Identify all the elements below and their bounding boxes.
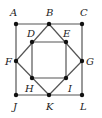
label-E: E bbox=[62, 28, 71, 39]
label-L: L bbox=[79, 101, 87, 112]
point-B bbox=[47, 22, 51, 26]
label-D: D bbox=[26, 28, 35, 39]
point-K bbox=[47, 93, 51, 97]
point-C bbox=[80, 22, 84, 26]
point-L bbox=[80, 93, 84, 97]
point-J bbox=[14, 93, 18, 97]
point-G bbox=[80, 59, 84, 63]
label-K: K bbox=[45, 101, 54, 112]
label-H: H bbox=[24, 83, 34, 94]
label-C: C bbox=[80, 7, 88, 18]
geometry-diagram: ABCDEFGHIJKL bbox=[0, 0, 102, 118]
point-F bbox=[14, 59, 18, 63]
point-A bbox=[14, 22, 18, 26]
label-F: F bbox=[4, 56, 13, 67]
point-D bbox=[30, 40, 34, 44]
point-H bbox=[30, 76, 34, 80]
label-G: G bbox=[86, 56, 94, 67]
point-I bbox=[64, 76, 68, 80]
label-I: I bbox=[67, 83, 73, 94]
point-E bbox=[64, 40, 68, 44]
label-J: J bbox=[11, 101, 18, 112]
label-A: A bbox=[9, 7, 17, 18]
label-B: B bbox=[45, 7, 53, 18]
